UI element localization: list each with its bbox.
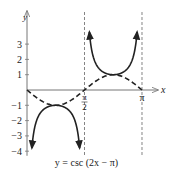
- y-tick-label: −2: [11, 115, 22, 126]
- y-tick-label: 3: [17, 39, 22, 50]
- y-tick-label: 1: [17, 69, 22, 80]
- x-axis-label: x: [160, 84, 166, 95]
- y-tick-label: −3: [11, 130, 22, 141]
- y-axis-label: y: [22, 12, 27, 22]
- svg-text:2: 2: [82, 102, 87, 112]
- y-tick-label: 2: [17, 54, 22, 65]
- cosecant-branch: [32, 105, 80, 148]
- x-tick-label: π: [139, 92, 144, 103]
- chart-caption: y = csc (2x − π): [0, 157, 173, 168]
- chart: 321−1−2−3−4π2π x y: [0, 0, 173, 179]
- y-tick-label: −4: [11, 146, 22, 157]
- cosecant-branch: [89, 32, 137, 75]
- y-tick-label: −1: [11, 100, 22, 111]
- x-tick-label: π: [82, 92, 87, 102]
